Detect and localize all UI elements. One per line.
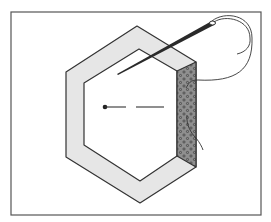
folded-edge bbox=[177, 62, 196, 167]
diagram-canvas: Hexagon patch with fabric edge folded an… bbox=[0, 0, 271, 222]
hexagon-diagram bbox=[0, 0, 271, 222]
